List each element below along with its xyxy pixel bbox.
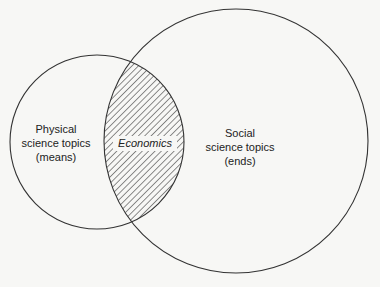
social-label-line-1: Social <box>225 127 255 139</box>
intersection-label: Economics <box>118 137 172 149</box>
economics-label: Economics <box>113 136 177 151</box>
social-label-line-3: (ends) <box>224 155 255 167</box>
physical-science-label: Physical science topics (means) <box>21 123 91 163</box>
social-label-line-2: science topics <box>205 141 275 153</box>
physical-label-line-1: Physical <box>36 123 77 135</box>
physical-label-line-3: (means) <box>36 151 76 163</box>
venn-diagram: Physical science topics (means) Economic… <box>0 0 380 287</box>
social-science-label: Social science topics (ends) <box>205 127 275 167</box>
physical-label-line-2: science topics <box>21 137 91 149</box>
